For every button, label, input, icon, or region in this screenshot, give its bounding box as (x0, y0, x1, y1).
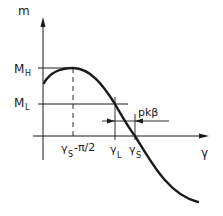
svg-text:M: M (14, 62, 24, 76)
y-axis (41, 17, 46, 160)
peak-angle-label: γ S -π/2 (61, 141, 95, 159)
svg-text:H: H (25, 69, 31, 78)
x-axis-label: γ (201, 146, 208, 160)
svg-text:L: L (117, 151, 122, 160)
svg-text:L: L (25, 103, 30, 112)
svg-text:S: S (136, 151, 141, 160)
pk-beta-label: pkβ (138, 106, 158, 119)
svg-text:S: S (68, 150, 73, 159)
arrow-right-icon (107, 119, 115, 124)
pk-beta-dimension (102, 119, 169, 124)
svg-text:-π/2: -π/2 (74, 141, 95, 154)
m-high-label: M H (14, 62, 31, 78)
svg-text:M: M (14, 96, 24, 110)
y-axis-label: m (18, 4, 30, 18)
x-axis (33, 134, 209, 139)
gamma-l-label: γ L (110, 143, 122, 160)
svg-text:γ: γ (110, 143, 117, 156)
x-axis-arrow-icon (199, 134, 209, 139)
gamma-s-label: γ S (129, 143, 141, 160)
svg-text:γ: γ (61, 142, 68, 155)
arrow-left-icon (135, 119, 143, 124)
m-low-label: M L (14, 96, 30, 112)
torque-angle-diagram: m γ M H M L γ S -π/2 γ L γ S pkβ (0, 0, 223, 216)
y-axis-arrow-icon (41, 17, 46, 27)
svg-text:γ: γ (129, 143, 136, 156)
torque-curve (44, 68, 198, 202)
